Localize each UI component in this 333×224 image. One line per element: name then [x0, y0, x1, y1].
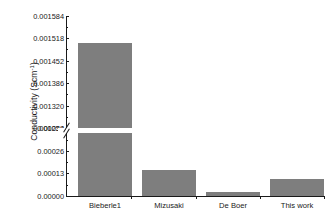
bar-bieberle1-upper — [78, 43, 132, 128]
x-category-label: Mizusaki — [142, 202, 196, 210]
x-axis-tick — [131, 196, 132, 199]
y-axis-minor-tick — [66, 27, 68, 28]
y-axis-tick — [66, 106, 69, 107]
y-axis-tick — [66, 151, 69, 152]
bar-this-work — [270, 179, 324, 196]
y-tick-label: 0.00000 — [12, 193, 64, 200]
y-axis-tick — [66, 61, 69, 62]
axis-break-gap — [58, 128, 330, 133]
y-tick-label: 0.00026 — [12, 148, 64, 155]
bar-mizusaki — [142, 170, 196, 196]
x-category-label: This work — [270, 202, 324, 210]
y-axis-minor-tick — [66, 117, 68, 118]
y-axis-tick — [66, 16, 69, 17]
y-axis-tick — [66, 38, 69, 39]
x-category-label: De Boer — [206, 202, 260, 210]
y-tick-label: 0.001386 — [12, 80, 64, 87]
y-tick-label: 0.00039 — [12, 125, 64, 132]
bar-bieberle1-lower — [78, 133, 132, 196]
y-axis-tick — [66, 196, 69, 197]
y-axis-minor-tick — [66, 94, 68, 95]
bar-de-boer — [206, 192, 260, 196]
y-axis-tick — [66, 83, 69, 84]
y-axis-minor-tick — [66, 140, 68, 141]
y-axis-minor-tick — [66, 162, 68, 163]
y-tick-label: 0.00013 — [12, 170, 64, 177]
bar-chart: Conductivity (Scm-1) 0.001584 0.001518 0… — [0, 0, 333, 224]
y-axis-tick — [66, 173, 69, 174]
x-axis-tick — [260, 196, 261, 199]
y-axis-minor-tick — [66, 185, 68, 186]
x-axis-tick — [324, 196, 325, 199]
y-tick-label: 0.001452 — [12, 58, 64, 65]
y-axis-minor-tick — [66, 72, 68, 73]
y-axis-minor-tick — [66, 49, 68, 50]
y-tick-label: 0.001320 — [12, 103, 64, 110]
y-tick-label: 0.001584 — [12, 13, 64, 20]
x-axis-tick — [196, 196, 197, 199]
x-category-label: Bieberle1 — [78, 202, 132, 210]
y-axis-tick-labels: 0.001584 0.001518 0.001452 0.001386 0.00… — [8, 0, 64, 224]
y-tick-label: 0.001518 — [12, 35, 64, 42]
